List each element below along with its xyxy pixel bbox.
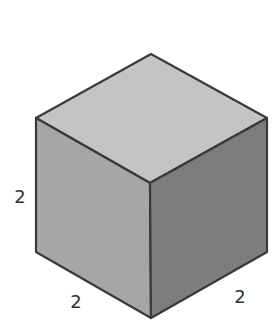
width-label: 2 — [234, 286, 245, 307]
depth-label: 2 — [70, 291, 81, 312]
height-label: 2 — [14, 186, 25, 207]
cube-diagram: 2 2 2 — [0, 0, 276, 326]
